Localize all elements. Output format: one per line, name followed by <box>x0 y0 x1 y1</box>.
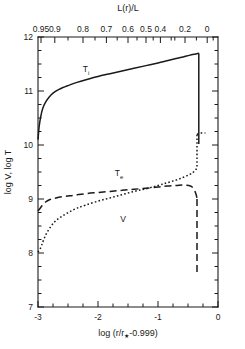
x-axis-title: log (r/r★-0.999) <box>98 328 158 339</box>
top-tick-label: 0.9 <box>49 24 61 34</box>
top-tick-label: 0.4 <box>154 24 166 34</box>
y-tick-label: 11 <box>24 86 33 96</box>
x-axis-title-group: log (r/r★-0.999) <box>98 328 158 339</box>
curve-v <box>38 167 197 252</box>
top-tick-label: 0.8 <box>77 24 89 34</box>
plot-svg: -3-2-107891011120.950.90.80.70.60.50.40.… <box>0 0 245 349</box>
curve-label-te: Te <box>115 168 124 180</box>
curve-label-v: V <box>120 214 126 224</box>
y-tick-label: 9 <box>28 194 33 204</box>
x-tick-label: -2 <box>94 312 102 322</box>
x-tick-label: 0 <box>216 312 221 322</box>
top-tick-label: 0.5 <box>140 24 152 34</box>
axis-ticks <box>38 37 218 307</box>
curve-ti <box>38 53 199 139</box>
data-curves <box>38 53 205 273</box>
y-tick-label: 10 <box>24 140 34 150</box>
top-tick-label: 0.7 <box>100 24 112 34</box>
top-tick-label: 0 <box>205 24 210 34</box>
curve-labels: TiTeV <box>83 64 127 224</box>
top-tick-label: 0.6 <box>122 24 134 34</box>
y-axis-title: log V, log T <box>3 149 13 194</box>
y-tick-label: 7 <box>28 302 33 312</box>
top-axis-title: L(r)/L <box>117 3 139 13</box>
plot-frame <box>38 37 218 307</box>
y-tick-label: 8 <box>28 248 33 258</box>
top-tick-label: 0.95 <box>33 24 50 34</box>
curve-label-ti: Ti <box>83 64 90 76</box>
x-tick-label: -3 <box>34 312 42 322</box>
figure-container: -3-2-107891011120.950.90.80.70.60.50.40.… <box>0 0 245 349</box>
curve-te <box>38 185 197 211</box>
top-tick-label: 0.2 <box>179 24 191 34</box>
x-tick-label: -1 <box>154 312 162 322</box>
